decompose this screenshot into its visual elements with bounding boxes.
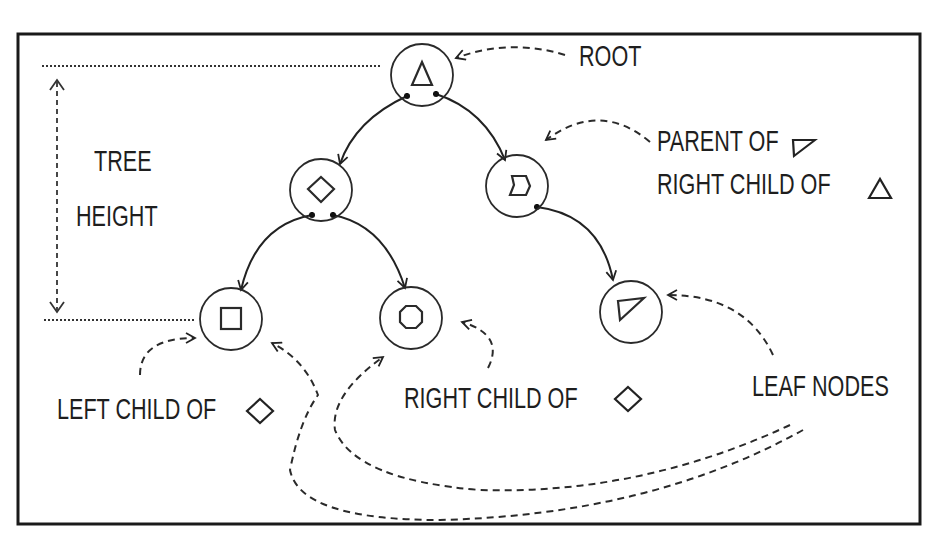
triangle-icon	[412, 62, 432, 85]
tree-height-label-line2: HEIGHT	[76, 200, 158, 232]
leaf-pointer-octagon	[335, 357, 790, 490]
square-icon	[221, 308, 241, 329]
node-right-triangle	[600, 281, 662, 343]
tree-nodes	[200, 44, 662, 350]
parent-pointer	[546, 120, 650, 142]
tree-height-label-line1: TREE	[94, 145, 152, 177]
annotation-arrows	[140, 47, 803, 520]
node-octagon	[380, 287, 442, 349]
binary-tree-diagram	[0, 0, 931, 556]
diagram-frame	[18, 34, 920, 524]
notched-pentagon-icon	[510, 176, 530, 195]
parent-label: PARENT OF	[657, 125, 779, 157]
diamond-icon	[612, 384, 644, 414]
node-square	[200, 288, 262, 350]
node-notch	[486, 155, 548, 217]
left-child-pointer	[140, 338, 195, 375]
octagon-icon	[400, 306, 422, 328]
diamond-icon	[244, 396, 276, 426]
triangle-icon	[866, 176, 894, 202]
root-pointer	[456, 47, 565, 58]
edge-diamond-to-octagon	[333, 215, 405, 288]
tree-edges	[241, 94, 613, 290]
right-child-of-root-label: RIGHT CHILD OF	[657, 168, 831, 200]
edge-root-to-notch	[436, 94, 505, 160]
root-label: ROOT	[579, 40, 641, 72]
node-diamond	[290, 159, 352, 221]
right-child-of-root-text: RIGHT CHILD OF	[657, 167, 831, 200]
edge-diamond-to-square	[241, 215, 312, 290]
parent-label-text: PARENT OF	[657, 124, 779, 157]
right-child-label: RIGHT CHILD OF	[404, 382, 578, 414]
right-triangle-icon	[618, 298, 644, 320]
left-child-label: LEFT CHILD OF	[57, 393, 216, 425]
edge-notch-to-right-triangle	[537, 207, 613, 280]
node-root	[391, 44, 453, 106]
leaf-pointer-square	[272, 343, 803, 520]
right-triangle-icon	[790, 137, 818, 159]
leaf-nodes-label: LEAF NODES	[752, 370, 889, 402]
right-child-pointer	[462, 322, 493, 368]
leaf-pointer-right-triangle	[668, 295, 773, 355]
diamond-icon	[308, 177, 334, 202]
edge-root-to-diamond	[340, 96, 407, 164]
